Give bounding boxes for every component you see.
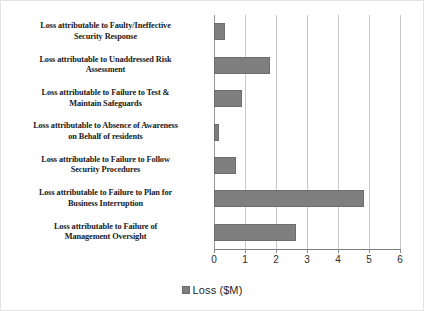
tick-mark [214,249,215,253]
bar [214,124,219,141]
category-label-text: Loss attributable to Failure to Test &Ma… [5,88,206,109]
tick-label: 0 [211,254,217,265]
category-label-text: Loss attributable to Failure ofManagemen… [5,222,206,243]
plot-area [214,15,400,249]
x-axis-tick-labels: 0123456 [214,254,400,268]
bar [214,90,242,107]
tick-label: 4 [335,254,341,265]
tick-mark [369,249,370,253]
tick-label: 5 [366,254,372,265]
bar-row [214,224,400,241]
category-label-text: Loss attributable to Failure to Plan for… [5,188,206,209]
category-label: Loss attributable to Unaddressed RiskAss… [5,48,211,81]
category-label-text: Loss attributable to Unaddressed RiskAss… [5,55,206,76]
bar-row [214,190,400,207]
bar-row [214,23,400,40]
category-label: Loss attributable to Faulty/IneffectiveS… [5,15,211,48]
chart-legend: Loss ($M) [1,284,423,296]
bar-row [214,90,400,107]
category-label-text: Loss attributable to Failure to FollowSe… [5,155,206,176]
gridline [400,15,401,249]
bar-row [214,157,400,174]
bar [214,157,236,174]
bar [214,190,364,207]
tick-label: 3 [304,254,310,265]
category-label-text: Loss attributable to Absence of Awarenes… [5,121,206,142]
tick-label: 1 [242,254,248,265]
category-label: Loss attributable to Failure to Plan for… [5,182,211,215]
category-label: Loss attributable to Failure to Test &Ma… [5,82,211,115]
tick-label: 2 [273,254,279,265]
legend-swatch-icon [182,286,190,294]
bar [214,23,225,40]
bar-chart: Loss attributable to Faulty/IneffectiveS… [0,0,424,311]
bars-layer [214,15,400,249]
category-axis-labels: Loss attributable to Faulty/IneffectiveS… [5,15,211,249]
category-label-text: Loss attributable to Faulty/IneffectiveS… [5,21,206,42]
bar [214,57,270,74]
category-label: Loss attributable to Failure to FollowSe… [5,149,211,182]
x-axis-tick-marks [214,249,400,253]
bar-row [214,57,400,74]
bar-row [214,124,400,141]
legend-label: Loss ($M) [193,284,243,296]
tick-mark [338,249,339,253]
tick-mark [245,249,246,253]
tick-mark [276,249,277,253]
bar [214,224,296,241]
tick-mark [400,249,401,253]
tick-label: 6 [397,254,403,265]
tick-mark [307,249,308,253]
category-label: Loss attributable to Absence of Awarenes… [5,115,211,148]
legend-entry: Loss ($M) [182,284,243,296]
category-label: Loss attributable to Failure ofManagemen… [5,216,211,249]
